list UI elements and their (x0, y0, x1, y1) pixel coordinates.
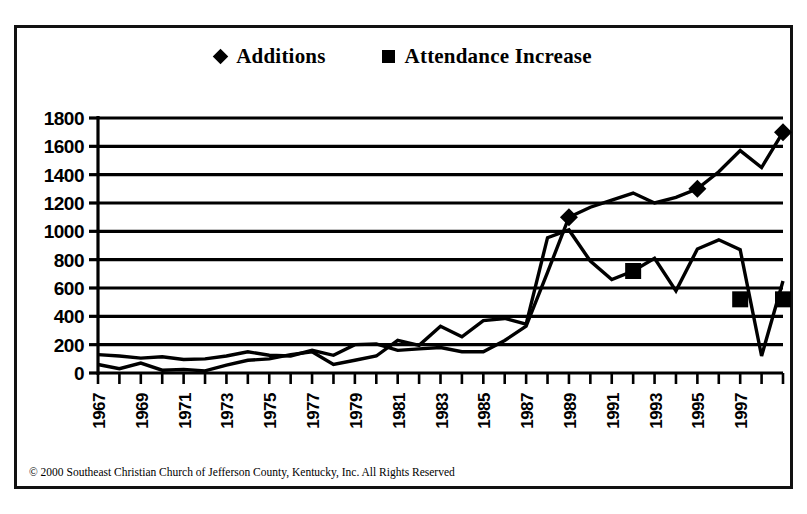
y-tick-label-1800: 1800 (44, 108, 84, 129)
x-tick-labels-group: 1967196919711973197519771979198119831985… (90, 393, 751, 429)
chart-figure-frame: Additions Attendance Increase 0200400600… (14, 25, 793, 489)
x-tick-label-1993: 1993 (647, 393, 666, 429)
x-tick-label-1997: 1997 (732, 393, 751, 429)
y-tick-label-600: 600 (54, 278, 84, 299)
x-tick-label-1975: 1975 (261, 393, 280, 429)
y-tick-label-1200: 1200 (44, 193, 84, 214)
x-tick-label-1967: 1967 (90, 393, 109, 429)
x-tick-label-1979: 1979 (347, 393, 366, 429)
data-series-group (98, 132, 783, 371)
series-line-attendance-increase (98, 230, 783, 371)
x-tick-label-1969: 1969 (133, 393, 152, 429)
data-markers-group (560, 123, 792, 307)
x-tick-label-1973: 1973 (218, 393, 237, 429)
y-tick-label-1000: 1000 (44, 221, 84, 242)
marker-diamond-1999 (774, 123, 792, 141)
x-tick-label-1987: 1987 (518, 393, 537, 429)
y-tick-label-800: 800 (54, 250, 84, 271)
x-tick-label-1989: 1989 (561, 393, 580, 429)
gridlines-group (98, 118, 783, 373)
x-tick-label-1981: 1981 (390, 393, 409, 429)
marker-diamond-1989 (560, 208, 578, 226)
marker-square-1999 (775, 291, 791, 307)
copyright-notice: © 2000 Southeast Christian Church of Jef… (29, 466, 455, 478)
y-tick-label-0: 0 (74, 363, 84, 384)
x-tick-marks-group (98, 373, 783, 384)
marker-square-1997 (732, 291, 748, 307)
x-tick-label-1995: 1995 (689, 393, 708, 429)
x-tick-label-1983: 1983 (433, 393, 452, 429)
x-tick-label-1985: 1985 (475, 393, 494, 429)
y-tick-label-400: 400 (54, 306, 84, 327)
line-chart-svg: 020040060080010001200140016001800 196719… (17, 28, 796, 492)
marker-square-1992 (625, 263, 641, 279)
plot-area: 020040060080010001200140016001800 196719… (17, 28, 796, 492)
y-tick-label-1400: 1400 (44, 165, 84, 186)
x-tick-label-1977: 1977 (304, 393, 323, 429)
y-tick-label-200: 200 (54, 335, 84, 356)
y-tick-label-1600: 1600 (44, 136, 84, 157)
y-tick-labels-group: 020040060080010001200140016001800 (44, 108, 84, 384)
x-tick-label-1971: 1971 (176, 393, 195, 429)
x-tick-label-1991: 1991 (604, 393, 623, 429)
